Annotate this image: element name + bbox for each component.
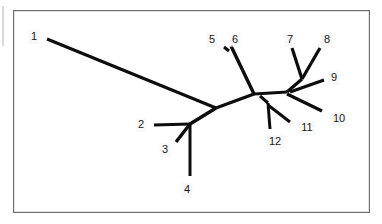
phylogenetic-tree-figure: 123456789101112 <box>0 0 382 224</box>
tree-canvas: 123456789101112 <box>0 0 382 224</box>
leaf-label-2: 2 <box>138 118 144 130</box>
figure-frame <box>14 11 370 213</box>
leaf-label-8: 8 <box>324 33 330 45</box>
edge-hub-crossbar <box>254 92 287 94</box>
leaf-label-3: 3 <box>162 143 168 155</box>
leaf-label-12: 12 <box>269 135 281 147</box>
leaf-label-4: 4 <box>184 183 190 195</box>
leaf-label-5: 5 <box>209 33 215 45</box>
leaf-label-1: 1 <box>31 30 37 42</box>
leaf-label-7: 7 <box>287 33 293 45</box>
leaf-label-10: 10 <box>333 112 345 124</box>
leaf-label-6: 6 <box>232 33 238 45</box>
edge-leaf-2 <box>154 124 190 125</box>
leaf-label-11: 11 <box>301 121 312 133</box>
leaf-label-9: 9 <box>331 71 337 83</box>
